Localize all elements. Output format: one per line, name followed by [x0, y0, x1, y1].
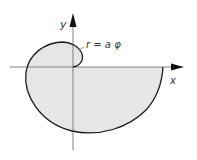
equation-label: r = a φ — [86, 39, 121, 50]
equation-leader-line — [79, 47, 84, 50]
spiral-shaded-area — [26, 42, 163, 133]
y-axis-arrow-icon — [70, 13, 77, 27]
x-axis-label: x — [169, 75, 176, 86]
y-axis-label: y — [59, 18, 67, 31]
x-axis-arrow-icon — [171, 64, 184, 71]
spiral-diagram: y x r = a φ — [0, 0, 197, 160]
